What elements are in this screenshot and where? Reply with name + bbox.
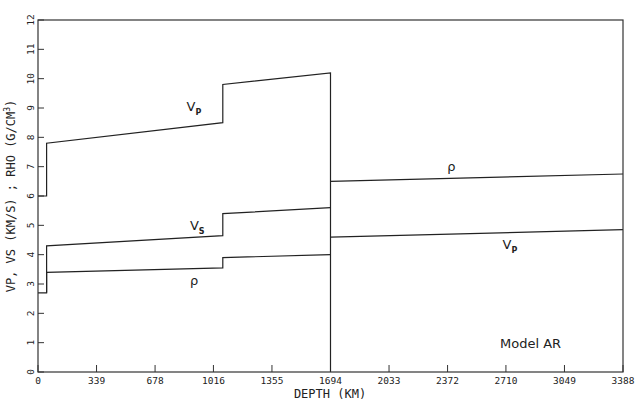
x-axis-label: DEPTH (KM) [294,387,366,401]
x-tick-label: 0 [35,375,41,386]
x-tick-label: 1694 [319,375,342,386]
x-axis-tick-labels: 033967810161355169420332372271030493388 [35,375,635,386]
curve-vp-core [331,230,624,237]
curve-label: ρ [190,273,198,288]
x-tick-label: 1355 [261,375,284,386]
y-tick-label: 5 [25,222,36,228]
y-tick-label: 10 [25,73,36,85]
y-tick-label: 8 [25,134,36,140]
y-tick-label: 2 [25,310,36,316]
curve-label: VP [502,237,517,255]
x-tick-label: 1016 [202,375,225,386]
y-tick-label: 0 [25,369,36,375]
x-tick-label: 2033 [378,375,401,386]
curve-rho-mantle [38,255,331,293]
chart-curves [38,73,623,372]
x-tick-label: 678 [146,375,163,386]
x-tick-label: 339 [88,375,105,386]
y-tick-label: 12 [25,14,36,25]
curve-label: VS [190,218,205,236]
curve-labels: VPVSρρVP [186,99,517,289]
y-tick-label: 7 [25,164,36,170]
y-tick-label: 3 [25,281,36,287]
curve-vp-mantle [38,73,331,372]
x-tick-label: 3388 [612,375,635,386]
y-axis-label-end: ) [4,100,18,107]
velocity-density-chart: 033967810161355169420332372271030493388 … [0,0,643,407]
y-tick-label: 4 [25,252,36,258]
x-tick-label: 3049 [553,375,576,386]
y-axis-label-main: VP, VS (KM/S) ; RHO (G/CM [4,112,18,293]
curve-vs-mantle [47,208,331,293]
y-axis-label: VP, VS (KM/S) ; RHO (G/CM3) [3,100,18,293]
curve-rho-core [331,174,624,181]
y-axis-tick-labels: 0123456789101112 [25,14,36,375]
curve-label: ρ [447,159,455,174]
curve-label: VP [186,99,201,117]
y-tick-label: 1 [25,340,36,346]
model-annotation: Model AR [500,336,561,351]
y-tick-label: 11 [25,43,36,55]
y-tick-label: 6 [25,193,36,199]
x-tick-label: 2372 [436,375,459,386]
y-tick-label: 9 [25,105,36,111]
x-tick-label: 2710 [494,375,517,386]
